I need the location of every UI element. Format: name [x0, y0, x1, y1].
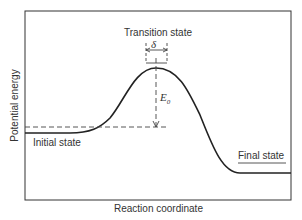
y-axis-label: Potential energy: [9, 56, 20, 156]
x-axis-label: Reaction coordinate: [114, 203, 203, 214]
activation-energy-symbol: E: [160, 91, 167, 103]
initial-state-label: Initial state: [33, 137, 81, 148]
final-state-label: Final state: [238, 150, 284, 161]
activation-energy-subscript: 0: [167, 98, 171, 106]
transition-state-label: Transition state: [124, 27, 192, 38]
delta-label: δ: [151, 38, 156, 50]
plot-frame: [25, 11, 291, 200]
activation-energy-label: E0: [160, 91, 170, 106]
